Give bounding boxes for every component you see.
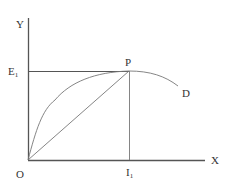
origin-label: O: [16, 168, 24, 180]
i1-label: I1: [126, 166, 134, 180]
curve-d: [28, 71, 178, 160]
x-axis-label: X: [211, 154, 219, 166]
curve-d-label: D: [182, 87, 190, 99]
e-label-sub: 1: [15, 71, 19, 79]
i-label-sub: 1: [130, 172, 134, 180]
diagram-canvas: Y X O P D E1 I1: [0, 0, 229, 187]
point-p-label: P: [125, 56, 131, 68]
y-axis-label: Y: [16, 18, 24, 30]
e1-label: E1: [8, 65, 19, 79]
